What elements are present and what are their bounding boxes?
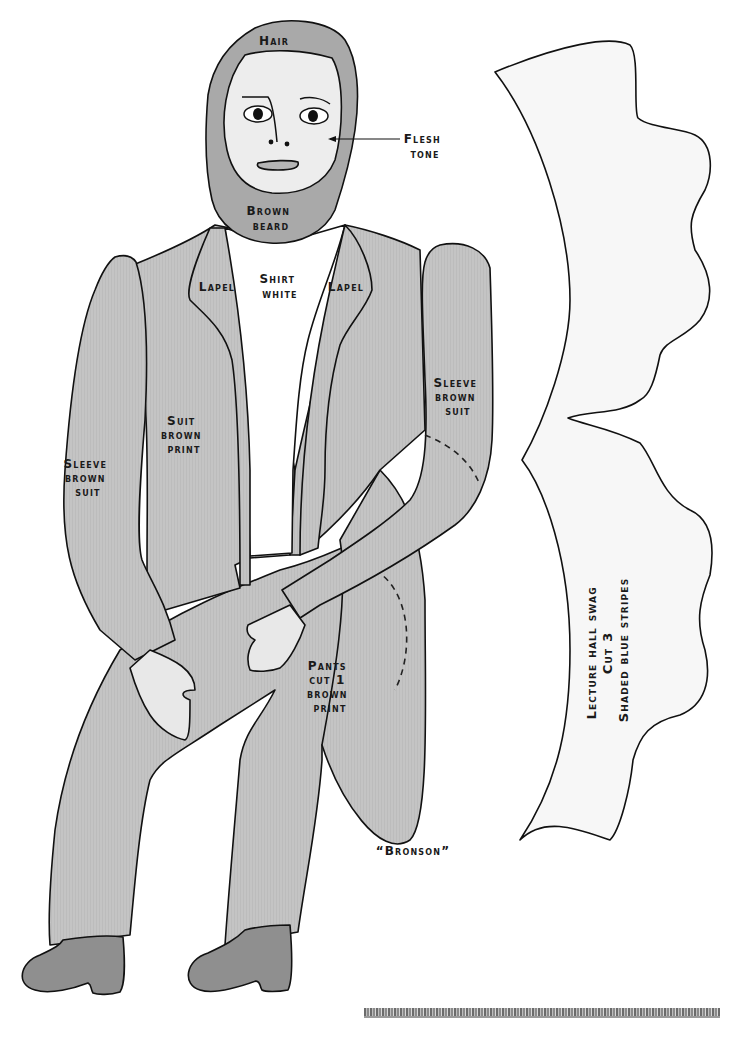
svg-text:Brown beard: Brown beard	[246, 204, 295, 233]
svg-text:Hair: Hair	[259, 34, 289, 48]
svg-text:Shirt white: Shirt white	[260, 272, 301, 301]
label-lapel-right: Lapel	[328, 280, 364, 294]
label-sleeve-right: Sleeve	[434, 376, 478, 390]
label-pants: Pants	[308, 659, 347, 673]
caption-bronson: “Bronson”	[376, 844, 451, 858]
right-shoe	[188, 925, 291, 992]
svg-text:Pants cut 1 brown: Pants cut 1 brown print	[307, 659, 353, 715]
swag-label-line1: Lecture hall swag	[584, 586, 599, 719]
label-flesh: Flesh	[404, 132, 441, 146]
label-beard: Brown	[246, 204, 290, 218]
label-sleeve-left: Sleeve	[64, 457, 108, 471]
pattern-sheet: Lecture hall swag Cut 3 Shaded blue stri…	[0, 0, 737, 1044]
label-hair: Hair	[259, 34, 289, 48]
swag-label-line2: Cut 3	[600, 632, 615, 675]
svg-text:Lapel: Lapel	[328, 280, 364, 294]
label-suit: Suit	[167, 414, 195, 428]
left-shoe	[22, 936, 124, 995]
lecture-hall-swag-piece: Lecture hall swag Cut 3 Shaded blue stri…	[495, 41, 712, 840]
head-piece	[206, 21, 400, 243]
label-shirt: Shirt	[260, 272, 296, 286]
svg-text:Lapel: Lapel	[199, 280, 235, 294]
svg-text:“Bronson”: “Bronson”	[376, 844, 451, 858]
svg-text:Flesh tone: Flesh tone	[404, 132, 447, 161]
mouth	[257, 161, 298, 170]
swag-label-line3: Shaded blue stripes	[616, 578, 631, 723]
decorative-stripe-bar	[364, 1008, 720, 1018]
label-lapel-left: Lapel	[199, 280, 235, 294]
svg-text:Suit brown print: Suit brown print	[161, 414, 207, 456]
